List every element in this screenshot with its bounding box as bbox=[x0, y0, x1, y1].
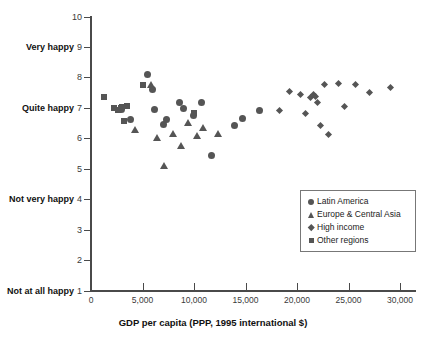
data-point-square bbox=[140, 82, 146, 88]
data-point-diamond bbox=[314, 99, 321, 106]
x-tick-label: 0 bbox=[68, 296, 114, 305]
data-point-triangle bbox=[169, 130, 177, 137]
data-point-circle bbox=[151, 106, 158, 113]
y-tick-label: 8 bbox=[66, 73, 82, 82]
legend-item-high-income[interactable]: High income bbox=[305, 221, 412, 234]
data-point-diamond bbox=[335, 80, 342, 87]
data-point-circle bbox=[239, 115, 246, 122]
x-tick bbox=[91, 283, 92, 291]
y-category-label: Quite happy bbox=[22, 104, 74, 113]
x-tick bbox=[246, 283, 247, 291]
data-point-square bbox=[121, 118, 127, 124]
x-tick bbox=[400, 283, 401, 291]
legend-item-latin-america[interactable]: Latin America bbox=[305, 195, 412, 208]
y-tick-label: 6 bbox=[66, 134, 82, 143]
legend-item-label: Latin America bbox=[317, 197, 369, 206]
data-point-circle bbox=[198, 99, 205, 106]
x-tick-label: 10,000 bbox=[171, 296, 217, 305]
y-tick bbox=[84, 260, 91, 261]
data-point-triangle bbox=[193, 132, 201, 139]
x-axis-line bbox=[90, 290, 416, 292]
y-category-label: Not very happy bbox=[9, 195, 74, 204]
data-point-triangle bbox=[147, 81, 155, 88]
triangle-marker-icon bbox=[305, 209, 317, 221]
legend-item-label: Other regions bbox=[317, 236, 369, 245]
scatter-chart: 12345678910 05,00010,00015,00020,00025,0… bbox=[0, 0, 426, 339]
data-point-diamond bbox=[317, 122, 324, 129]
x-tick-label: 30,000 bbox=[377, 296, 423, 305]
square-marker-icon bbox=[305, 235, 317, 247]
data-point-square bbox=[191, 110, 197, 116]
y-tick bbox=[84, 291, 91, 292]
y-tick bbox=[84, 47, 91, 48]
data-point-triangle bbox=[199, 124, 207, 131]
y-category-label: Very happy bbox=[26, 43, 74, 52]
y-tick-label: 2 bbox=[66, 256, 82, 265]
y-tick bbox=[84, 17, 91, 18]
diamond-marker-icon bbox=[305, 222, 317, 234]
x-tick bbox=[297, 283, 298, 291]
data-point-circle bbox=[256, 107, 263, 114]
data-point-circle bbox=[163, 116, 170, 123]
data-point-triangle bbox=[177, 142, 185, 149]
data-point-diamond bbox=[352, 81, 359, 88]
legend-item-label: High income bbox=[317, 223, 364, 232]
data-point-square bbox=[101, 94, 107, 100]
x-tick bbox=[143, 283, 144, 291]
data-point-triangle bbox=[184, 119, 192, 126]
x-tick-label: 5,000 bbox=[120, 296, 166, 305]
x-tick bbox=[194, 283, 195, 291]
data-point-circle bbox=[231, 122, 238, 129]
data-point-triangle bbox=[160, 162, 168, 169]
y-tick bbox=[84, 77, 91, 78]
y-tick bbox=[84, 230, 91, 231]
data-point-diamond bbox=[387, 84, 394, 91]
data-point-diamond bbox=[302, 110, 309, 117]
y-axis-line bbox=[90, 16, 92, 292]
y-tick bbox=[84, 108, 91, 109]
data-point-diamond bbox=[276, 107, 283, 114]
data-point-triangle bbox=[214, 130, 222, 137]
y-tick-label: 10 bbox=[66, 13, 82, 22]
data-point-diamond bbox=[366, 89, 373, 96]
data-point-diamond bbox=[325, 131, 332, 138]
y-tick bbox=[84, 169, 91, 170]
legend: Latin America Europe & Central Asia High… bbox=[300, 190, 416, 252]
x-tick-label: 20,000 bbox=[274, 296, 320, 305]
data-point-circle bbox=[180, 105, 187, 112]
data-point-diamond bbox=[321, 81, 328, 88]
x-tick-label: 25,000 bbox=[326, 296, 372, 305]
data-point-triangle bbox=[153, 134, 161, 141]
x-axis-title: GDP per capita (PPP, 1995 international … bbox=[0, 317, 426, 328]
data-point-diamond bbox=[341, 103, 348, 110]
y-tick-label: 3 bbox=[66, 226, 82, 235]
data-point-circle bbox=[127, 116, 134, 123]
data-point-diamond bbox=[286, 88, 293, 95]
legend-item-label: Europe & Central Asia bbox=[317, 210, 401, 219]
data-point-diamond bbox=[297, 91, 304, 98]
data-point-circle bbox=[208, 152, 215, 159]
y-category-label: Not at all happy bbox=[7, 287, 74, 296]
x-tick-label: 15,000 bbox=[223, 296, 269, 305]
y-tick bbox=[84, 199, 91, 200]
data-point-triangle bbox=[131, 126, 139, 133]
y-tick bbox=[84, 138, 91, 139]
circle-marker-icon bbox=[305, 196, 317, 208]
x-tick bbox=[349, 283, 350, 291]
legend-item-other-regions[interactable]: Other regions bbox=[305, 234, 412, 247]
legend-item-europe-central-asia[interactable]: Europe & Central Asia bbox=[305, 208, 412, 221]
y-tick-label: 5 bbox=[66, 165, 82, 174]
data-point-square bbox=[124, 103, 130, 109]
data-point-circle bbox=[144, 71, 151, 78]
